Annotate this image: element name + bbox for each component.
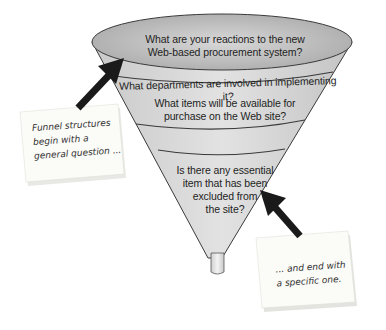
question-4-line-2: item that has been <box>170 177 280 190</box>
question-level-4: Is there any essential item that has bee… <box>170 164 280 216</box>
question-4-line-3: excluded from <box>170 190 280 203</box>
question-level-3: What items will be available for purchas… <box>150 97 300 123</box>
question-4-line-1: Is there any essential <box>170 164 280 177</box>
question-1-line-2: Web-based procurement system? <box>140 46 310 59</box>
question-4-line-4: the site? <box>170 203 280 216</box>
question-level-1: What are your reactions to the new Web-b… <box>140 33 310 59</box>
funnel-spout <box>211 253 224 274</box>
question-1-line-1: What are your reactions to the new <box>140 33 310 46</box>
right-note-text: ... and end with a specific one. <box>275 258 347 291</box>
question-3-line-2: purchase on the Web site? <box>150 110 300 123</box>
left-note-text: Funnel structures begin with a general q… <box>32 115 122 163</box>
question-3-line-1: What items will be available for <box>150 97 300 110</box>
